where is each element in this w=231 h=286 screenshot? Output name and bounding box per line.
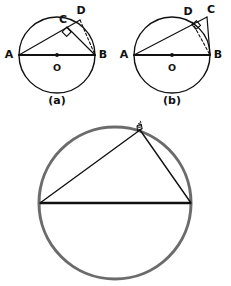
panel-a-label-A: A (5, 48, 14, 61)
panel-a-label-D: D (76, 4, 85, 17)
panel-b-caption: (b) (163, 94, 181, 107)
geometry-figure-root: A B O C D (a) A B (0, 0, 231, 286)
panel-a-label-B: B (99, 48, 107, 61)
panel-b-label-B: B (214, 48, 222, 61)
panel-b-center-dot (170, 53, 174, 57)
panel-b-label-A: A (120, 48, 129, 61)
panel-b-label-O: O (168, 62, 176, 73)
panel-a-label-O: O (53, 62, 61, 73)
geometry-figure-svg: A B O C D (a) A B (0, 0, 231, 286)
panel-b-label-C: C (207, 3, 215, 16)
panel-b-label-D: D (183, 5, 192, 18)
figure-background (0, 0, 231, 286)
panel-a-label-C: C (59, 13, 67, 26)
panel-a-center-dot (55, 53, 59, 57)
panel-a-caption: (a) (48, 94, 65, 107)
